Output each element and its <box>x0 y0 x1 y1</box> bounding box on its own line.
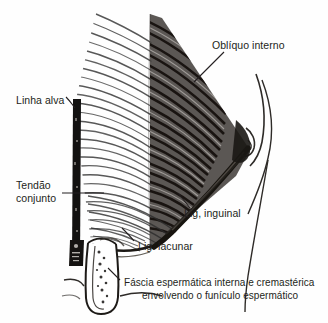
label-tendao-conjunto-line1: Tendão <box>16 179 51 191</box>
label-fascia-line2: envolvendo o funículo espermático <box>142 290 299 301</box>
label-lig-inguinal: Lig, inguinal <box>184 207 241 219</box>
anatomy-figure: Oblíquo interno Linha alva Tendão conjun… <box>0 0 328 323</box>
anatomy-illustration: Oblíquo interno Linha alva Tendão conjun… <box>0 0 328 323</box>
label-tendao-conjunto-line2: conjunto <box>16 192 56 204</box>
label-lig-lacunar: Lig. lacunar <box>138 240 193 252</box>
label-fascia-line1: Fáscia espermática interna e cremastéric… <box>124 277 315 288</box>
label-obliquo-interno: Oblíquo interno <box>212 39 285 51</box>
label-linha-alva: Linha alva <box>16 94 64 106</box>
